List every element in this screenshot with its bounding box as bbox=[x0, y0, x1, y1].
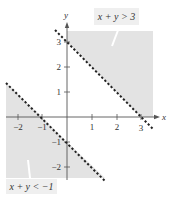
x-axis-arrow-icon bbox=[154, 115, 160, 119]
y-tick-label: 2 bbox=[57, 62, 62, 72]
x-tick-label: 2 bbox=[115, 122, 120, 132]
y-tick-label: 1 bbox=[57, 87, 62, 97]
x-tick-label: −1 bbox=[37, 122, 47, 132]
y-tick-label: −1 bbox=[51, 137, 61, 147]
x-axis-label: x bbox=[161, 112, 166, 122]
y-axis-label: y bbox=[63, 10, 68, 20]
inequality-graph: −2 −1 1 2 3 3 2 1 −1 −2 x y x + y > 3 x … bbox=[0, 0, 170, 197]
region-upper bbox=[67, 31, 153, 117]
x-tick-label: 1 bbox=[90, 122, 95, 132]
y-axis-arrow-icon bbox=[65, 22, 69, 28]
x-tick-label: 3 bbox=[139, 123, 144, 133]
x-tick-label: −2 bbox=[13, 122, 23, 132]
inequality-label-lower: x + y < −1 bbox=[8, 181, 53, 192]
y-tick-label: −2 bbox=[51, 162, 61, 172]
inequality-label-upper: x + y > 3 bbox=[97, 11, 135, 22]
y-tick-label: 3 bbox=[57, 37, 62, 47]
